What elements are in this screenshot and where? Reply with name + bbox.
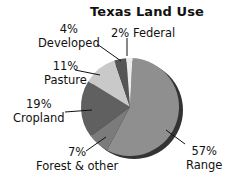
label-cropland: 19% Cropland — [13, 97, 65, 125]
label-pasture-pct: 11% — [44, 59, 87, 73]
label-forest: 7% Forest & other — [36, 145, 118, 173]
label-range-pct: 57% — [186, 144, 222, 158]
label-forest-pct: 7% — [36, 145, 118, 159]
label-federal: 2% Federal — [111, 26, 175, 40]
label-developed-name: Developed — [38, 36, 100, 50]
label-pasture-name: Pasture — [44, 73, 87, 87]
label-developed: 4% Developed — [38, 22, 100, 50]
label-cropland-pct: 19% — [13, 97, 65, 111]
label-range: 57% Range — [186, 144, 222, 172]
label-forest-name: Forest & other — [36, 159, 118, 173]
label-pasture: 11% Pasture — [44, 59, 87, 87]
label-range-name: Range — [186, 158, 222, 172]
label-cropland-name: Cropland — [13, 111, 65, 125]
label-developed-pct: 4% — [38, 22, 100, 36]
leader-line — [97, 44, 121, 61]
